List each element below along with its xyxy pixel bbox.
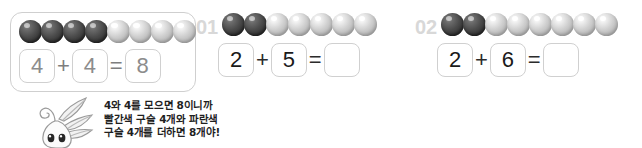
problem-02-number: 02 [415,12,437,37]
problem-02-equation: 2 + 6 = [415,43,637,77]
problem-01-equation-inner: 2 + 5 = [218,43,360,77]
bead-dark [463,13,486,36]
problem-01-bead-row [222,12,376,36]
bead-light [151,20,174,43]
bead-light [173,20,196,43]
explanation-line-2: 빨간색 구슬 4개와 파란색 [104,113,236,127]
bead-light [310,13,333,36]
example-addend1-box: 4 [19,49,55,83]
problem-01-addend2-box: 5 [271,43,307,77]
bead-light [573,13,596,36]
worksheet: 4 + 4 = 8 01 2 + [0,0,642,148]
problem-02: 02 2 + 6 = [415,12,637,77]
example-equation: 4 + 4 = 8 [19,49,187,83]
bead-light [129,20,152,43]
plus-operator: + [254,49,271,71]
sprout-mascot-icon [28,96,106,148]
bead-dark [441,13,464,36]
problem-01-answer-input[interactable] [324,43,360,77]
problem-02-addend2-box: 6 [490,43,526,77]
bead-light [485,13,508,36]
problem-01: 01 2 + 5 = [196,12,408,77]
problem-02-answer-input[interactable] [543,43,579,77]
bead-dark [19,20,42,43]
problem-01-number: 01 [196,12,218,37]
bead-light [266,13,289,36]
bead-light [507,13,530,36]
example-addend2-box: 4 [72,49,108,83]
problem-01-equation: 2 + 5 = [196,43,408,77]
example-problem: 4 + 4 = 8 [10,12,196,92]
bead-dark [85,20,108,43]
plus-operator: + [55,55,72,77]
example-sum-box: 8 [125,49,161,83]
explanation-line-1: 4와 4를 모으면 8이니까 [104,99,236,113]
bead-light [332,13,355,36]
problem-02-addend1-box: 2 [437,43,473,77]
problem-02-equation-inner: 2 + 6 = [437,43,579,77]
plus-operator: + [473,49,490,71]
equals-operator: = [108,55,125,77]
problem-01-addend1-box: 2 [218,43,254,77]
explanation-text: 4와 4를 모으면 8이니까 빨간색 구슬 4개와 파란색 구슬 4개를 더하면… [104,99,236,140]
example-frame: 4 + 4 = 8 [10,12,196,92]
problem-02-header-row: 02 [415,12,637,37]
bead-light [107,20,130,43]
bead-light [288,13,311,36]
problem-02-bead-row [441,12,617,36]
bead-dark [244,13,267,36]
explanation-line-3: 구슬 4개를 더하면 8개야! [104,126,236,140]
bead-dark [41,20,64,43]
problem-01-header-row: 01 [196,12,408,37]
bead-dark [222,13,245,36]
bead-light [595,13,618,36]
bead-light [529,13,552,36]
bead-light [354,13,377,36]
equals-operator: = [307,49,324,71]
bead-light [551,13,574,36]
bead-dark [63,20,86,43]
example-bead-row [19,19,187,43]
equals-operator: = [526,49,543,71]
